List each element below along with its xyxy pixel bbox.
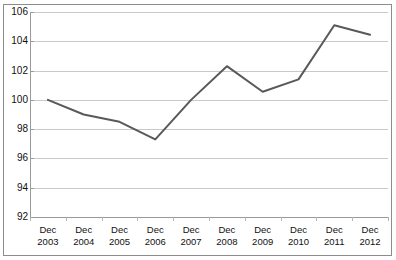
y-axis-tick-label: 92 bbox=[2, 212, 28, 222]
x-axis-tick-labels: Dec2003Dec2004Dec2005Dec2006Dec2007Dec20… bbox=[30, 224, 388, 256]
x-axis-tick-label: Dec2006 bbox=[137, 224, 173, 256]
line-chart: 10610410210098969492 Dec2003Dec2004Dec20… bbox=[0, 0, 396, 260]
y-axis-tick-labels: 10610410210098969492 bbox=[0, 0, 28, 260]
gridline bbox=[30, 71, 388, 72]
gridline bbox=[30, 12, 388, 13]
x-tick-mark bbox=[137, 217, 138, 221]
x-tick-mark bbox=[245, 217, 246, 221]
x-tick-mark bbox=[102, 217, 103, 221]
y-axis-tick-label: 98 bbox=[2, 124, 28, 134]
x-axis-tick-label: Dec2007 bbox=[173, 224, 209, 256]
x-axis-tick-label: Dec2010 bbox=[281, 224, 317, 256]
y-axis-tick-label: 100 bbox=[2, 95, 28, 105]
y-tick-mark bbox=[30, 158, 34, 159]
x-axis-tick-label: Dec2008 bbox=[209, 224, 245, 256]
y-tick-mark bbox=[30, 71, 34, 72]
y-axis-tick-label: 104 bbox=[2, 36, 28, 46]
y-axis-tick-label: 96 bbox=[2, 153, 28, 163]
plot-area bbox=[30, 12, 388, 217]
x-tick-mark bbox=[30, 217, 31, 221]
y-tick-mark bbox=[30, 188, 34, 189]
gridline bbox=[30, 41, 388, 42]
gridline bbox=[30, 100, 388, 101]
x-tick-mark bbox=[316, 217, 317, 221]
x-axis-tick-label: Dec2005 bbox=[102, 224, 138, 256]
gridline bbox=[30, 129, 388, 130]
y-tick-mark bbox=[30, 129, 34, 130]
x-tick-mark bbox=[352, 217, 353, 221]
y-tick-mark bbox=[30, 100, 34, 101]
x-tick-mark bbox=[388, 217, 389, 221]
x-axis-tick-label: Dec2003 bbox=[30, 224, 66, 256]
x-axis-tick-label: Dec2011 bbox=[316, 224, 352, 256]
y-axis-tick-label: 102 bbox=[2, 66, 28, 76]
x-tick-mark bbox=[281, 217, 282, 221]
gridline bbox=[30, 188, 388, 189]
x-tick-mark bbox=[209, 217, 210, 221]
x-tick-mark bbox=[173, 217, 174, 221]
y-axis-tick-label: 94 bbox=[2, 183, 28, 193]
x-tick-mark bbox=[66, 217, 67, 221]
gridline bbox=[30, 158, 388, 159]
x-axis-tick-label: Dec2012 bbox=[352, 224, 388, 256]
y-tick-mark bbox=[30, 41, 34, 42]
y-axis-tick-label: 106 bbox=[2, 7, 28, 17]
x-axis-tick-label: Dec2009 bbox=[245, 224, 281, 256]
x-axis-tick-label: Dec2004 bbox=[66, 224, 102, 256]
y-tick-mark bbox=[30, 12, 34, 13]
